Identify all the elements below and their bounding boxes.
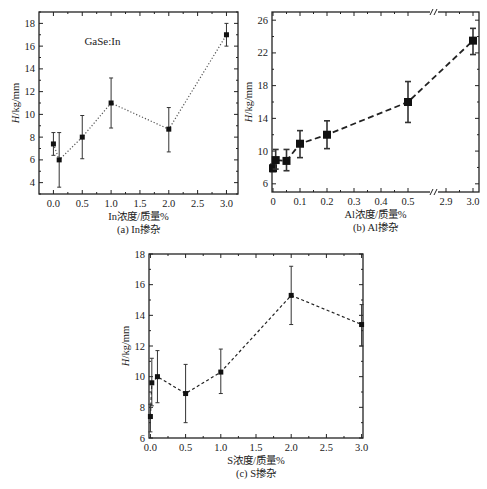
data-point-marker xyxy=(404,98,412,106)
data-point-marker xyxy=(149,380,154,385)
data-point-marker xyxy=(323,131,331,139)
plot-frame xyxy=(39,12,238,194)
y-tick-label: 10 xyxy=(258,146,269,157)
chart-in-doping: 46810121416180.00.51.01.52.02.53.0In浓度/质… xyxy=(10,12,238,236)
data-point-marker xyxy=(289,293,294,298)
x-tick-label: 0.0 xyxy=(47,198,60,209)
data-line xyxy=(53,35,226,160)
figure-caption: (b) Al掺杂 xyxy=(353,221,398,234)
x-axis-title: In浓度/质量% xyxy=(108,210,169,222)
y-tick-label: 12 xyxy=(25,86,36,97)
x-tick-label: 0.2 xyxy=(320,196,333,207)
x-tick-label: 0.0 xyxy=(144,442,157,453)
x-tick-label: 2.5 xyxy=(320,442,333,453)
data-point-marker xyxy=(469,37,477,45)
x-tick-label: 3.0 xyxy=(466,196,479,207)
plot-frame xyxy=(272,12,479,192)
y-tick-label: 12 xyxy=(135,341,146,352)
data-point-marker xyxy=(57,157,62,162)
x-tick-label: 0.5 xyxy=(179,442,192,453)
data-point-marker xyxy=(296,140,304,148)
data-point-marker xyxy=(51,141,56,146)
x-tick-label: 2.9 xyxy=(439,196,452,207)
y-axis-title: H/kg/mm xyxy=(243,82,254,123)
chart-s-doping: 6810121416180.00.51.01.52.02.53.0S浓度/质量%… xyxy=(120,249,368,481)
data-point-marker xyxy=(109,101,114,106)
y-tick-label: 18 xyxy=(258,80,269,91)
data-point-marker xyxy=(166,127,171,132)
y-tick-label: 8 xyxy=(140,402,145,413)
data-point-marker xyxy=(272,156,280,164)
series-annotation: GaSe:In xyxy=(84,35,121,47)
y-tick-label: 10 xyxy=(135,371,146,382)
y-tick-label: 26 xyxy=(258,15,269,26)
figure-canvas: 46810121416180.00.51.01.52.02.53.0In浓度/质… xyxy=(0,0,487,489)
x-tick-label: 2.5 xyxy=(191,198,204,209)
y-tick-label: 6 xyxy=(263,178,268,189)
y-tick-label: 16 xyxy=(25,41,36,52)
x-tick-label: 2.0 xyxy=(162,198,175,209)
figure-caption: (a) In掺杂 xyxy=(117,223,160,236)
x-tick-label: 0.5 xyxy=(401,196,414,207)
x-tick-label: 0 xyxy=(270,196,275,207)
data-point-marker xyxy=(224,32,229,37)
y-tick-label: 4 xyxy=(30,177,36,188)
y-tick-label: 22 xyxy=(258,47,269,58)
x-tick-label: 3.0 xyxy=(355,442,368,453)
x-tick-label: 1.5 xyxy=(133,198,146,209)
y-tick-label: 10 xyxy=(25,109,36,120)
x-tick-label: 0.5 xyxy=(76,198,89,209)
x-axis-title: S浓度/质量% xyxy=(227,454,285,466)
chart-al-doping: 6101418222600.10.20.30.40.52.93.0Al浓度/质量… xyxy=(243,9,480,234)
y-tick-label: 8 xyxy=(30,132,35,143)
data-point-marker xyxy=(283,157,291,165)
y-tick-label: 6 xyxy=(30,154,35,165)
y-axis-title: H/kg/mm xyxy=(10,83,21,124)
x-tick-label: 2.0 xyxy=(285,442,298,453)
x-tick-label: 0.3 xyxy=(347,196,360,207)
y-tick-label: 18 xyxy=(25,18,36,29)
data-point-marker xyxy=(80,135,85,140)
y-tick-label: 14 xyxy=(135,310,146,321)
data-line xyxy=(150,295,361,416)
y-tick-label: 14 xyxy=(25,63,36,74)
x-axis-title: Al浓度/质量% xyxy=(344,208,406,220)
x-tick-label: 0.4 xyxy=(374,196,388,207)
y-axis-title: H/kg/mm xyxy=(120,326,131,367)
data-point-marker xyxy=(148,414,153,419)
y-tick-label: 18 xyxy=(135,249,146,260)
y-tick-label: 16 xyxy=(135,279,146,290)
x-tick-label: 0.1 xyxy=(293,196,306,207)
x-tick-label: 1.0 xyxy=(105,198,118,209)
data-line xyxy=(273,41,473,169)
plot-frame xyxy=(149,254,363,438)
figure-caption: (c) S掺杂 xyxy=(236,467,276,480)
data-point-marker xyxy=(218,370,223,375)
y-tick-label: 14 xyxy=(258,113,269,124)
data-point-marker xyxy=(183,391,188,396)
x-tick-label: 3.0 xyxy=(220,198,233,209)
data-point-marker xyxy=(155,374,160,379)
x-tick-label: 1.5 xyxy=(249,442,262,453)
x-tick-label: 1.0 xyxy=(214,442,227,453)
data-point-marker xyxy=(359,322,364,327)
